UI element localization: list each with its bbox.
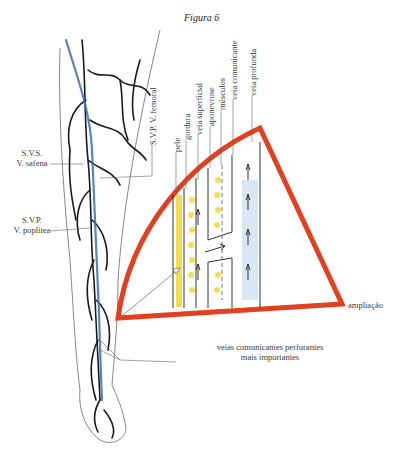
label-svp-femoral: S.V.P. V. femoral <box>148 87 158 145</box>
label-pele: pele <box>172 138 182 152</box>
label-svp: S.V.P. <box>8 215 56 225</box>
label-musculos: músculos <box>217 78 227 110</box>
label-perfurantes-line1: veias comunicantes perfurantes <box>200 342 340 352</box>
label-ampliacao: ampliação <box>348 300 383 310</box>
label-poplitea: V. poplítea <box>8 225 56 235</box>
label-svs: S.V.S. <box>10 148 54 158</box>
label-veia-superficial: veia superficial <box>194 83 204 135</box>
label-gordura: gordura <box>182 114 192 140</box>
label-svs-safena: S.V.S. V. safena <box>10 148 54 168</box>
enlargement-frame <box>118 128 342 318</box>
label-svp-poplitea: S.V.P. V. poplítea <box>8 215 56 235</box>
label-aponevrose: aponevrose <box>206 87 216 126</box>
superficial-veins <box>69 40 150 438</box>
label-veia-profunda: veia profunda <box>248 49 258 96</box>
label-veia-comunicante: veia comunicante <box>229 40 239 100</box>
label-safena: V. safena <box>10 158 54 168</box>
label-perfurantes: veias comunicantes perfurantes mais impo… <box>200 342 340 362</box>
label-perfurantes-line2: mais importantes <box>200 352 340 362</box>
leg-vein-illustration <box>0 0 403 454</box>
